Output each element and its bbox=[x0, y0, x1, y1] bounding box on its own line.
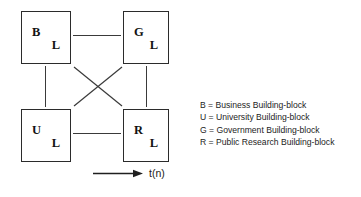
connector-government-public-research bbox=[146, 66, 147, 107]
legend-item-public-research: R = Public Research Building-block bbox=[200, 136, 358, 148]
node-label-primary: U bbox=[32, 124, 41, 137]
node-label-secondary: L bbox=[150, 137, 158, 150]
connector-university-public-research bbox=[73, 133, 121, 134]
arrow-right-icon bbox=[93, 168, 143, 179]
legend-item-university: U = University Building-block bbox=[200, 111, 358, 123]
node-label-secondary: L bbox=[52, 39, 60, 52]
node-box-government: G L bbox=[123, 11, 169, 64]
diagram-canvas: B L G L U L R L t(n) B = Business Buildi… bbox=[0, 0, 361, 197]
connector-government-university bbox=[74, 67, 122, 106]
node-box-business: B L bbox=[21, 11, 71, 64]
legend-item-government: G = Government Building-block bbox=[200, 124, 358, 136]
node-label-primary: B bbox=[32, 26, 40, 39]
node-label-primary: R bbox=[134, 124, 143, 137]
node-box-university: U L bbox=[21, 109, 71, 162]
node-label-primary: G bbox=[134, 26, 144, 39]
legend-item-business: B = Business Building-block bbox=[200, 99, 358, 111]
connector-business-government bbox=[73, 35, 121, 36]
connector-business-public-research bbox=[74, 67, 122, 106]
node-box-public-research: R L bbox=[123, 109, 169, 162]
time-axis-label: t(n) bbox=[149, 168, 165, 179]
connector-business-university bbox=[45, 66, 46, 107]
time-axis: t(n) bbox=[93, 168, 165, 179]
node-label-secondary: L bbox=[52, 137, 60, 150]
node-label-secondary: L bbox=[150, 39, 158, 52]
legend: B = Business Building-block U = Universi… bbox=[200, 99, 358, 149]
